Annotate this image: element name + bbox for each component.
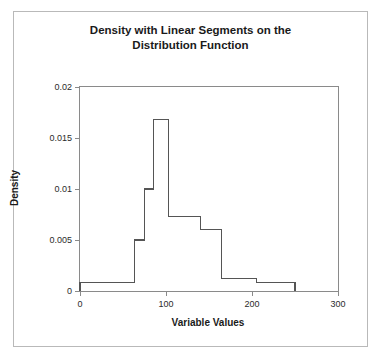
x-axis-tick [252, 291, 253, 296]
chart-title: Density with Linear Segments on the Dist… [13, 23, 368, 53]
y-axis-tick-label: 0.015 [49, 133, 72, 143]
y-axis-tick-label: 0.005 [49, 235, 72, 245]
x-axis-tick [166, 291, 167, 296]
x-axis-tick-label: 100 [158, 299, 173, 309]
y-axis-label: Density [9, 170, 20, 206]
y-axis-tick [75, 138, 80, 139]
y-axis-tick [75, 240, 80, 241]
x-axis-tick-label: 300 [330, 299, 345, 309]
y-axis-tick-label: 0.02 [54, 82, 72, 92]
y-axis-tick [75, 189, 80, 190]
plot-area: 00.0050.010.0150.020100200300 [79, 86, 339, 292]
x-axis-tick [80, 291, 81, 296]
plot-inner [80, 87, 338, 291]
x-axis-tick-label: 200 [244, 299, 259, 309]
x-axis-tick [338, 291, 339, 296]
chart-title-line-1: Density with Linear Segments on the [13, 23, 368, 38]
chart-title-line-2: Distribution Function [13, 38, 368, 53]
y-axis-tick [75, 87, 80, 88]
histogram-outline [80, 120, 295, 291]
x-axis-tick-label: 0 [77, 299, 82, 309]
histogram-step-path [80, 87, 338, 291]
y-axis-tick-label: 0 [67, 286, 72, 296]
x-axis-label: Variable Values [79, 317, 337, 328]
figure-canvas: Density with Linear Segments on the Dist… [0, 0, 381, 363]
y-axis-tick-label: 0.01 [54, 184, 72, 194]
